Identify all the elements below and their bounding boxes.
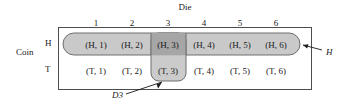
outcome-cell: (T, 1) xyxy=(78,67,114,76)
outcome-cell: (T, 5) xyxy=(222,67,258,76)
die-column-header-3: 3 xyxy=(158,18,178,28)
die-column-header-6: 6 xyxy=(266,18,286,28)
die-column-header-5: 5 xyxy=(230,18,250,28)
die-axis-title: Die xyxy=(58,3,312,12)
coin-row-header-t: T xyxy=(45,65,51,74)
outcome-cell: (T, 4) xyxy=(186,67,222,76)
die-column-header-2: 2 xyxy=(122,18,142,28)
die-column-header-1: 1 xyxy=(86,18,106,28)
diagram-artwork xyxy=(0,0,342,108)
outcome-cell: (T, 3) xyxy=(150,67,186,76)
outcome-cell: (H, 3) xyxy=(150,41,186,50)
outcome-cell: (H, 2) xyxy=(114,41,150,50)
sample-space-diagram: Die 1 2 3 4 5 6 Coin H T (H, 1) (H, 2) (… xyxy=(0,0,342,108)
outcome-cell: (H, 4) xyxy=(186,41,222,50)
outcome-cell: (H, 1) xyxy=(78,41,114,50)
coin-row-header-h: H xyxy=(45,39,52,48)
outcome-cell: (H, 6) xyxy=(258,41,294,50)
coin-axis-title: Coin xyxy=(16,48,34,57)
callout-label-event-h: H xyxy=(326,48,333,57)
outcome-cell: (T, 6) xyxy=(258,67,294,76)
outcome-cell: (H, 5) xyxy=(222,41,258,50)
outcome-cell: (T, 2) xyxy=(114,67,150,76)
die-column-header-4: 4 xyxy=(194,18,214,28)
callout-label-event-d3: D3 xyxy=(112,91,123,100)
